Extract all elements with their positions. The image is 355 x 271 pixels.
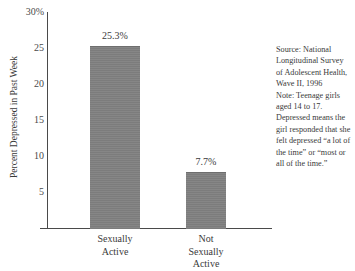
bar-not-sexually-active <box>186 172 226 229</box>
y-axis-ticks: 30% 25 20 15 10 5 <box>0 0 47 271</box>
source-text: Source: National Longitudinal Survey of … <box>276 44 352 90</box>
x-category-not-sexually-active: Not Sexually Active <box>166 233 246 271</box>
category-line: Sexually <box>166 246 246 259</box>
source-note-block: Source: National Longitudinal Survey of … <box>276 44 352 169</box>
category-line: Active <box>75 246 155 259</box>
x-category-sexually-active: Sexually Active <box>75 233 155 258</box>
bar-sexually-active <box>90 46 140 229</box>
y-axis-line <box>47 12 48 229</box>
x-axis-line <box>40 228 272 229</box>
y-axis-label: Percent Depressed in Past Week <box>9 37 19 197</box>
bar-value-label: 25.3% <box>75 30 155 41</box>
category-line: Sexually <box>75 233 155 246</box>
bar-chart-figure: 30% 25 20 15 10 5 Percent Depressed in P… <box>0 0 355 271</box>
y-tick-label: 30% <box>3 7 47 17</box>
note-text: Note: Teenage girls aged 14 to 17. Depre… <box>276 90 352 170</box>
bar-value-label: 7.7% <box>166 156 246 167</box>
category-line: Not <box>166 233 246 246</box>
category-line: Active <box>166 258 246 271</box>
